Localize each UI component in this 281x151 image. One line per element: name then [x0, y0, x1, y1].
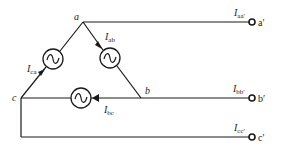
label-ica: Ica — [26, 63, 37, 76]
label-ibb: Ibb′ — [232, 83, 245, 96]
delta-source-diagram: a b c Ica Iab Ibc a′ b′ c′ Iaa′ Ibb′ Icc… — [0, 0, 281, 151]
terminal-label-b-prime: b′ — [258, 93, 265, 104]
ac-source-ca-icon — [43, 49, 63, 69]
node-label-a: a — [74, 11, 79, 22]
terminal-c-prime — [249, 134, 255, 140]
ac-source-bc-icon — [71, 88, 91, 108]
wire-source-ca-to-a — [60, 22, 83, 51]
label-iaa: Iaa′ — [233, 7, 246, 20]
node-label-b: b — [145, 85, 150, 96]
label-icc: Icc′ — [233, 122, 246, 135]
terminal-label-c-prime: c′ — [258, 132, 265, 143]
terminal-b-prime — [249, 95, 255, 101]
terminal-a-prime — [249, 19, 255, 25]
label-iab: Iab — [104, 31, 115, 44]
label-ibc: Ibc — [103, 104, 114, 117]
ac-source-ab-icon — [100, 48, 120, 68]
wire-source-ab-to-b — [117, 66, 141, 98]
terminal-label-a-prime: a′ — [258, 17, 265, 28]
node-label-c: c — [12, 92, 17, 103]
arrow-ibc-icon — [92, 94, 99, 102]
arrow-iab-icon — [95, 41, 102, 49]
